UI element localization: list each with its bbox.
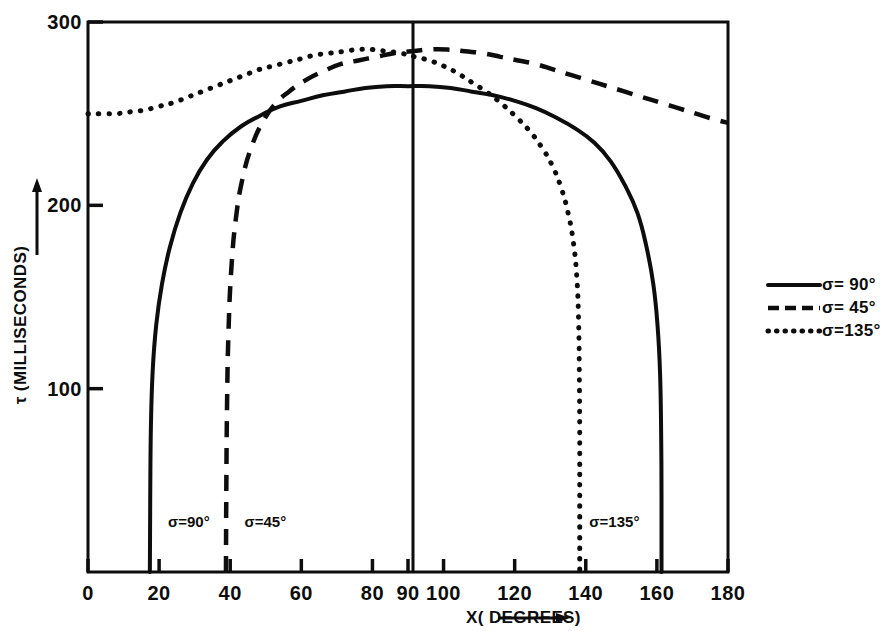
x-tick-label-80: 80 bbox=[361, 582, 384, 605]
curve-sigma-135 bbox=[88, 49, 580, 572]
legend-label-2: σ= 45° bbox=[822, 298, 876, 318]
legend-label-1: σ= 90° bbox=[822, 275, 876, 295]
x-tick-label-140: 140 bbox=[568, 582, 603, 605]
y-axis-title: τ (MILLISECONDS) bbox=[11, 246, 31, 404]
legend-sample-lines bbox=[768, 285, 820, 331]
x-tick-label-90: 90 bbox=[396, 582, 419, 605]
x-tick-label-0: 0 bbox=[82, 582, 94, 605]
x-tick-label-120: 120 bbox=[497, 582, 532, 605]
plot-annotation-3: σ=135° bbox=[589, 513, 639, 530]
x-tick-label-180: 180 bbox=[711, 582, 746, 605]
plot-annotation-2: σ=45° bbox=[244, 513, 286, 530]
y-tick-label-300: 300 bbox=[20, 11, 82, 34]
curve-sigma-45 bbox=[226, 49, 728, 572]
plot-annotation-1: σ=90° bbox=[168, 513, 210, 530]
x-tick-label-100: 100 bbox=[426, 582, 461, 605]
x-axis-ticks bbox=[88, 559, 728, 572]
x-tick-label-60: 60 bbox=[290, 582, 313, 605]
curve-sigma-90 bbox=[150, 86, 662, 572]
y-axis-title-wrapper: τ (MILLISECONDS) bbox=[6, 175, 36, 475]
x-tick-label-20: 20 bbox=[147, 582, 170, 605]
x-axis-title: X( DEGREES) bbox=[466, 608, 581, 628]
legend-label-3: σ=135° bbox=[822, 321, 881, 341]
x-tick-label-40: 40 bbox=[219, 582, 242, 605]
plot-frame bbox=[88, 22, 728, 572]
y-axis-ticks bbox=[88, 22, 103, 389]
x-tick-label-160: 160 bbox=[639, 582, 674, 605]
